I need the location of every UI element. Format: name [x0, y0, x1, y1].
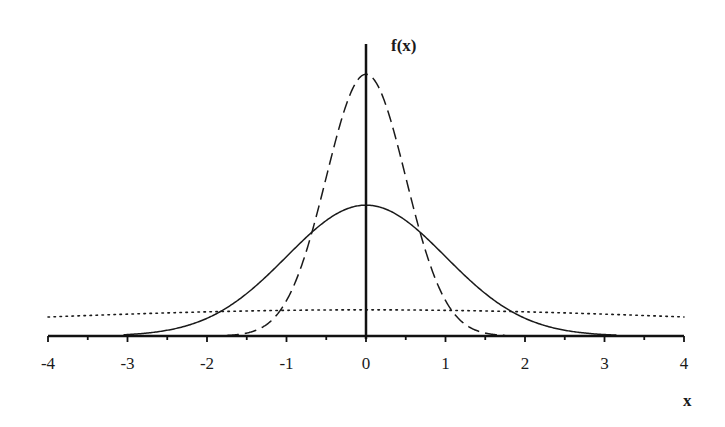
x-tick-label: 0	[362, 354, 371, 373]
x-tick-label: -3	[120, 354, 134, 373]
x-tick-label: -4	[41, 354, 56, 373]
x-tick-label: -2	[200, 354, 214, 373]
x-tick-labels: -4-3-2-101234	[41, 354, 689, 373]
x-tick-label: 1	[441, 354, 450, 373]
y-axis-label: f(x)	[391, 36, 416, 55]
axes	[48, 44, 684, 342]
normal-distribution-chart: -4-3-2-101234 f(x) x	[0, 0, 725, 427]
x-tick-label: -1	[279, 354, 293, 373]
x-tick-label: 4	[680, 354, 689, 373]
curve-solid	[124, 205, 617, 335]
x-tick-label: 3	[600, 354, 609, 373]
x-axis-label: x	[683, 391, 692, 410]
x-tick-label: 2	[521, 354, 530, 373]
